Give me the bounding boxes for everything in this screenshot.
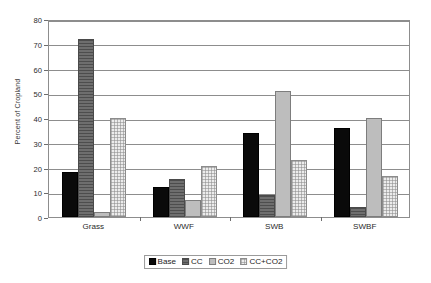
y-tick-label: 0	[2, 214, 42, 223]
x-tick-mark	[230, 217, 231, 221]
bar	[350, 207, 366, 217]
y-tick-label: 10	[2, 189, 42, 198]
y-tick-label: 70	[2, 40, 42, 49]
x-tick-mark	[321, 217, 322, 221]
legend-swatch-icon	[149, 258, 156, 265]
bar	[185, 200, 201, 217]
bar	[259, 195, 275, 217]
bar	[62, 172, 78, 217]
bar	[382, 176, 398, 217]
bar	[110, 118, 126, 217]
legend-label: CC	[191, 257, 203, 266]
x-tick-mark	[140, 217, 141, 221]
bar-group	[49, 21, 140, 217]
bar	[366, 118, 382, 217]
y-tick-label: 40	[2, 115, 42, 124]
bar	[201, 166, 217, 217]
bar	[291, 160, 307, 217]
bar	[94, 212, 110, 217]
y-tick-label: 60	[2, 65, 42, 74]
bar-group	[230, 21, 321, 217]
bar-group	[321, 21, 412, 217]
legend-item-cc: CC	[182, 257, 203, 266]
legend-swatch-icon	[182, 258, 189, 265]
legend-label: Base	[158, 257, 176, 266]
x-tick-label-swb: SWB	[229, 222, 320, 231]
legend-swatch-icon	[240, 258, 247, 265]
bar	[153, 187, 169, 217]
legend-item-base: Base	[149, 257, 176, 266]
legend-label: CC+CO2	[249, 257, 282, 266]
chart-legend: BaseCCCO2CC+CO2	[144, 255, 288, 269]
y-tick-label: 30	[2, 139, 42, 148]
plot-area	[48, 20, 410, 218]
legend-swatch-icon	[209, 258, 216, 265]
y-tick-label: 20	[2, 164, 42, 173]
bar	[243, 133, 259, 217]
x-tick-label-swbf: SWBF	[320, 222, 411, 231]
x-tick-label-grass: Grass	[48, 222, 139, 231]
y-tick-label: 80	[2, 16, 42, 25]
bar	[275, 91, 291, 217]
y-tick-mark	[44, 218, 48, 219]
bar	[78, 39, 94, 217]
y-tick-label: 50	[2, 90, 42, 99]
legend-item-cc-plus-co2: CC+CO2	[240, 257, 282, 266]
legend-label: CO2	[218, 257, 235, 266]
bar-group	[140, 21, 231, 217]
x-tick-label-wwf: WWF	[139, 222, 230, 231]
legend-item-co2: CO2	[209, 257, 235, 266]
bar-chart: Percent of Cropland 01020304050607080 Gr…	[0, 0, 431, 283]
bar	[334, 128, 350, 217]
bar	[169, 179, 185, 217]
